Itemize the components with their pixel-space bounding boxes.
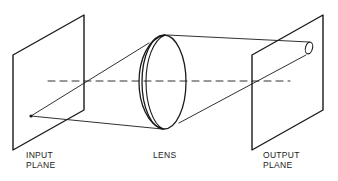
input-plane-label: INPUT PLANE xyxy=(26,150,55,170)
input-plane xyxy=(13,15,84,150)
optical-diagram: INPUT PLANE LENS OUTPUT PLANE xyxy=(0,0,338,181)
ray-input-top xyxy=(31,43,149,116)
output-plane-label-line2: PLANE xyxy=(263,160,300,170)
output-plane-label-line1: OUTPUT xyxy=(263,150,300,160)
ray-input-bottom xyxy=(31,116,162,129)
lens-label: LENS xyxy=(153,150,176,160)
lens-label-text: LENS xyxy=(153,150,176,160)
input-plane-label-line2: PLANE xyxy=(26,160,55,170)
input-plane-label-line1: INPUT xyxy=(26,150,55,160)
output-plane-label: OUTPUT PLANE xyxy=(263,150,300,170)
output-image-spot xyxy=(304,41,314,54)
ray-output-bottom xyxy=(179,55,306,123)
input-point xyxy=(29,114,32,117)
output-plane xyxy=(252,15,323,150)
lens-front-face xyxy=(142,35,186,129)
ray-output-top xyxy=(167,35,309,42)
